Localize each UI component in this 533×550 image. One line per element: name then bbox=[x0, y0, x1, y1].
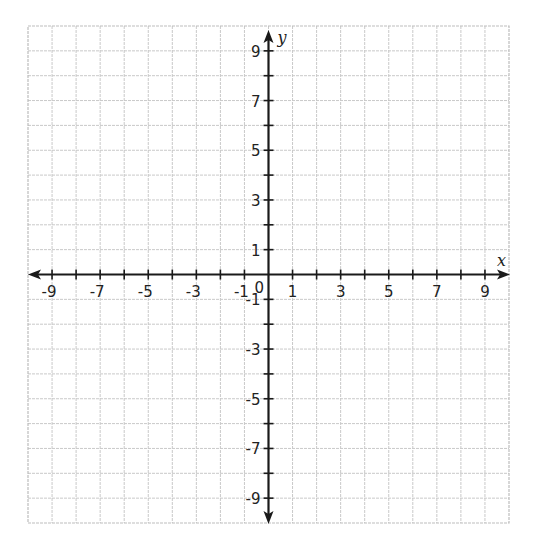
y-tick-label: -9 bbox=[246, 490, 261, 508]
coordinate-plane: -9-7-5-3-11357997531-1-3-5-7-9 x y 0 bbox=[0, 0, 533, 550]
y-tick-label: 5 bbox=[251, 142, 261, 160]
y-tick-label: 1 bbox=[251, 242, 261, 260]
y-tick-label: 9 bbox=[251, 43, 261, 61]
x-tick-label: 3 bbox=[336, 283, 346, 301]
origin-label: 0 bbox=[255, 279, 265, 297]
y-tick-label: 3 bbox=[251, 192, 261, 210]
x-tick-label: -9 bbox=[42, 283, 57, 301]
y-tick-label: -7 bbox=[246, 440, 261, 458]
x-tick-label: -3 bbox=[186, 283, 201, 301]
x-tick-label: -7 bbox=[90, 283, 105, 301]
x-tick-label: 9 bbox=[480, 283, 490, 301]
y-tick-label: -3 bbox=[246, 341, 261, 359]
x-tick-label: 5 bbox=[384, 283, 394, 301]
y-tick-label: -5 bbox=[246, 391, 261, 409]
x-tick-label: -5 bbox=[138, 283, 153, 301]
x-tick-label: 1 bbox=[288, 283, 298, 301]
x-axis-label: x bbox=[497, 251, 506, 270]
y-axis-label: y bbox=[277, 28, 288, 47]
y-tick-label: 7 bbox=[251, 93, 261, 111]
x-tick-label: 7 bbox=[432, 283, 442, 301]
